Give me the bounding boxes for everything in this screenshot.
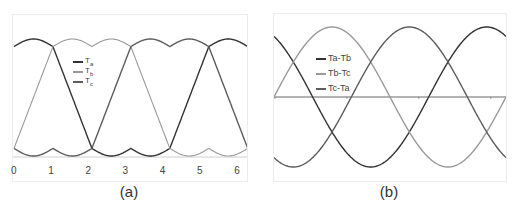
- x-tick-1: 1: [48, 165, 54, 176]
- legend-a: Ta Tb Tc: [73, 57, 93, 87]
- x-tick-2: 2: [85, 165, 91, 176]
- chart-a-plot: [13, 15, 247, 181]
- legend-swatch-ta: [73, 61, 83, 63]
- legend-swatch-tb: [73, 71, 83, 73]
- legend-b: Ta-Tb Tb-Tc Tc-Ta: [316, 51, 351, 96]
- chart-panel-b: Ta-Tb Tb-Tc Tc-Ta: [273, 13, 507, 182]
- legend-swatch-tb-tc: [316, 73, 326, 75]
- x-tick-3: 3: [123, 165, 129, 176]
- x-tick-6: 6: [234, 165, 240, 176]
- legend-label-tc-ta: Tc-Ta: [328, 81, 350, 96]
- chart-b-plot: [274, 14, 506, 181]
- legend-sub-tc: c: [90, 80, 93, 86]
- legend-label-tc: Tc: [85, 76, 93, 89]
- x-tick-4: 4: [160, 165, 166, 176]
- legend-label-tb-tc: Tb-Tc: [328, 66, 351, 81]
- legend-swatch-tc-ta: [316, 88, 326, 90]
- legend-item-tc: Tc: [73, 77, 93, 87]
- legend-item-tb-tc: Tb-Tc: [316, 66, 351, 81]
- legend-swatch-ta-tb: [316, 58, 326, 60]
- x-tick-5: 5: [197, 165, 203, 176]
- x-tick-0: 0: [11, 165, 17, 176]
- caption-b: (b): [359, 183, 419, 200]
- legend-label-ta-tb: Ta-Tb: [328, 51, 351, 66]
- legend-item-ta-tb: Ta-Tb: [316, 51, 351, 66]
- caption-a: (a): [99, 183, 159, 200]
- chart-panel-a: Ta Tb Tc 0123456: [12, 14, 248, 182]
- legend-item-tc-ta: Tc-Ta: [316, 81, 351, 96]
- legend-swatch-tc: [73, 81, 83, 83]
